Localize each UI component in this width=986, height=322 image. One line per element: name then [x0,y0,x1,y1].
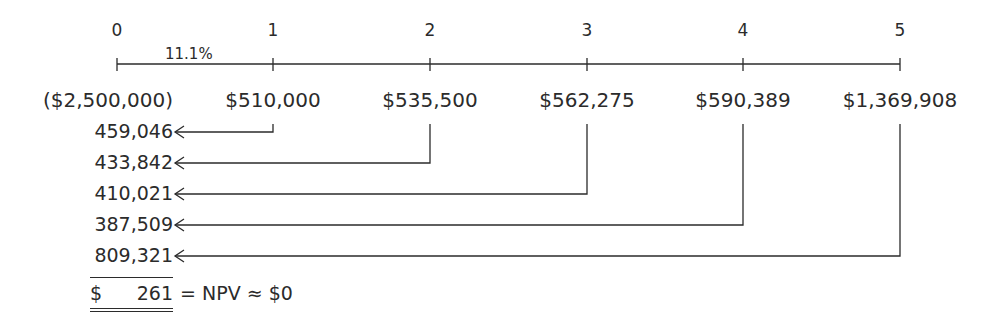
present-value-2: 433,842 [33,151,173,173]
double-underline-bottom [90,311,173,312]
discount-arrow-4 [175,124,743,225]
cash-flow-4: $590,389 [695,88,790,112]
double-underline-top [90,308,173,309]
cash-flow-0: ($2,500,000) [43,88,173,112]
total-value: 261 [137,282,173,304]
cash-flow-2: $535,500 [382,88,477,112]
present-value-4: 387,509 [33,213,173,235]
npv-equation: = NPV ≈ $0 [180,282,293,304]
discount-arrow-5 [175,124,900,256]
present-value-1: 459,046 [33,120,173,142]
cash-flow-1: $510,000 [225,88,320,112]
cash-flow-3: $562,275 [539,88,634,112]
present-value-3: 410,021 [33,182,173,204]
total-currency: $ [90,282,102,304]
present-value-5: 809,321 [33,244,173,266]
discount-arrow-3 [175,124,587,194]
discount-arrow-2 [175,124,430,163]
cash-flow-5: $1,369,908 [843,88,958,112]
sum-rule [90,277,173,278]
discount-arrow-1 [175,124,273,132]
